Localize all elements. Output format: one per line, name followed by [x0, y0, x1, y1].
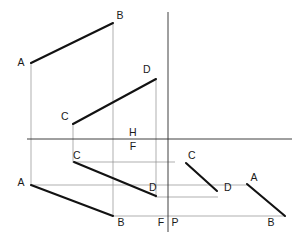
label-cd-front-d: D — [149, 181, 157, 193]
label-ab-profile-a: A — [250, 171, 257, 183]
label-plane-h: H — [129, 126, 137, 138]
projector-line-group — [31, 23, 285, 216]
label-cd-profile-c: C — [188, 149, 196, 161]
label-axis-f: F — [158, 216, 165, 228]
segment-ab-top-view — [31, 23, 113, 63]
label-ab-front-a: A — [17, 176, 24, 188]
technical-drawing-canvas: A B C D H F C D A B C D A B F P — [0, 0, 306, 244]
label-ab-top-b: B — [116, 9, 123, 21]
label-plane-f: F — [130, 140, 137, 152]
segment-ab-front-view — [31, 185, 113, 216]
object-line-group — [31, 23, 285, 216]
label-ab-top-a: A — [17, 56, 24, 68]
segment-ab-profile-view — [247, 184, 285, 216]
label-cd-front-c: C — [73, 149, 81, 161]
segment-cd-top-view — [73, 79, 156, 124]
segment-cd-front-view — [74, 162, 156, 196]
segment-cd-profile-view — [186, 163, 217, 191]
label-cd-top-c: C — [61, 110, 69, 122]
label-ab-profile-b: B — [267, 216, 274, 228]
label-cd-top-d: D — [143, 63, 151, 75]
label-axis-p: P — [171, 216, 178, 228]
label-cd-profile-d: D — [224, 181, 232, 193]
label-ab-front-b: B — [117, 216, 124, 228]
projection-diagram: A B C D H F C D A B C D A B F P — [0, 0, 306, 244]
